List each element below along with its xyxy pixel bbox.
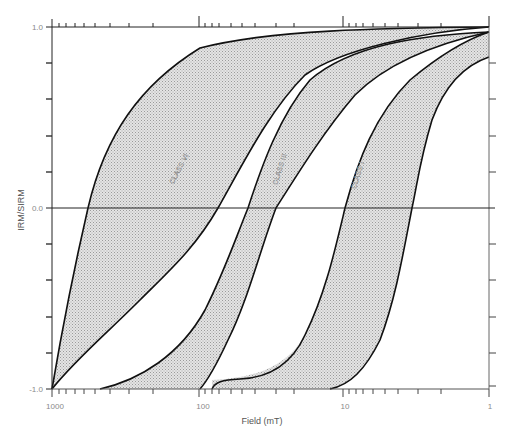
y-tick-label-neg1: -1.0	[29, 385, 43, 394]
x-tick-label-1: 1	[488, 402, 493, 411]
x-ticks-bottom	[52, 389, 489, 397]
y-tick-label-1: 1.0	[32, 23, 44, 32]
x-axis-title: Field (mT)	[242, 416, 283, 426]
x-tick-label-1000: 1000	[46, 402, 64, 411]
x-tick-label-100: 100	[196, 402, 210, 411]
y-tick-label-0: 0.0	[32, 204, 44, 213]
irm-acquisition-chart: 1.0 0.0 -1.0 1000 100 10 1 Field (mT) IR…	[0, 0, 511, 442]
x-tick-label-10: 10	[341, 402, 350, 411]
y-axis-title: IRM/SIRM	[16, 189, 26, 231]
y-ticks-right	[489, 63, 496, 386]
x-ticks-top	[52, 16, 489, 27]
